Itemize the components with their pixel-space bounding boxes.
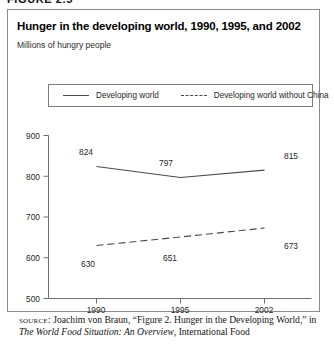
y-tick-label-800: 800	[16, 172, 40, 182]
figure-number: FIGURE 2.5	[7, 0, 73, 5]
x-axis-ticks	[97, 299, 265, 304]
value-label-developing-world-1995: 797	[159, 158, 173, 168]
source-label: SOURCE:	[19, 314, 51, 325]
y-axis-ticks	[44, 136, 49, 299]
value-label-without-china-1995: 651	[163, 253, 177, 263]
source-text-2: , International Food	[174, 326, 250, 337]
y-tick-label-900: 900	[16, 131, 40, 141]
plot-area: 900 800 700 600 500 1990 1995 2002 824 7…	[8, 10, 321, 313]
series-line-developing-world-without-china	[97, 228, 265, 246]
figure-frame: Hunger in the developing world, 1990, 19…	[7, 9, 320, 312]
y-tick-label-700: 700	[16, 212, 40, 222]
y-tick-label-600: 600	[16, 253, 40, 263]
value-label-without-china-1990: 630	[81, 259, 95, 269]
source-note: SOURCE: Joachim von Braun, “Figure 2. Hu…	[19, 314, 319, 338]
source-italic-title: The World Food Situation: An Overview	[19, 326, 174, 337]
value-label-without-china-2002: 673	[284, 241, 298, 251]
value-label-developing-world-1990: 824	[79, 147, 93, 157]
value-label-developing-world-2002: 815	[284, 151, 298, 161]
source-text-1: Joachim von Braun, “Figure 2. Hunger in …	[51, 314, 317, 325]
y-tick-label-500: 500	[16, 294, 40, 304]
series-line-developing-world	[97, 166, 265, 177]
